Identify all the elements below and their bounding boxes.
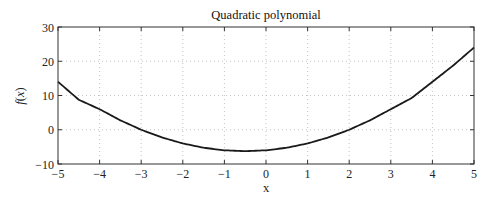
x-tick-label: 5 [471,167,477,181]
x-tick-labels: −5 −4 −3 −2 −1 0 1 2 3 4 5 [52,167,477,181]
y-axis-label: f(x) [13,87,27,104]
x-tick-label: −3 [135,167,148,181]
chart: Quadratic polynomial −5 −4 −3 −2 −1 0 1 … [0,0,488,201]
y-tick-label: −10 [35,158,54,172]
y-tick-label: 20 [42,55,54,69]
y-tick-label: 0 [48,123,54,137]
y-tick-label: 10 [42,89,54,103]
x-tick-label: 1 [305,167,311,181]
y-axis-label-paren-close: ) [13,87,27,91]
x-tick-label: 4 [429,167,435,181]
x-tick-label: 3 [388,167,394,181]
x-tick-label: 0 [263,167,269,181]
x-tick-label: −4 [93,167,106,181]
y-tick-label: 30 [42,21,54,35]
x-tick-label: −1 [218,167,231,181]
y-tick-labels: 30 20 10 0 −10 [35,21,54,172]
chart-title: Quadratic polynomial [211,8,321,22]
x-tick-label: 2 [346,167,352,181]
grid-lines [58,27,474,164]
x-axis-label: x [263,181,270,195]
x-tick-label: −2 [176,167,189,181]
